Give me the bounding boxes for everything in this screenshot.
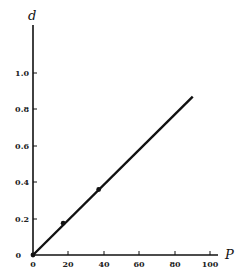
y-axis-label: d xyxy=(28,8,36,23)
y-tick-label: 0.2 xyxy=(15,214,29,224)
fit-line xyxy=(33,97,193,255)
x-axis-label: P xyxy=(224,247,234,262)
y-tick-label: 0.6 xyxy=(15,141,29,151)
data-point xyxy=(61,221,66,226)
x-tick-label: 0 xyxy=(30,259,36,269)
x-tick-label: 40 xyxy=(98,259,110,269)
x-tick-label: 100 xyxy=(202,259,219,269)
plot-area xyxy=(31,97,193,258)
x-tick-label: 20 xyxy=(62,259,74,269)
y-tick-label: 0.8 xyxy=(15,104,29,114)
x-tick-label: 80 xyxy=(169,259,181,269)
y-tick-label: 0.4 xyxy=(15,177,29,187)
y-tick-label: 1.0 xyxy=(15,68,29,78)
chart: d P 0 0.2 0.4 0.6 0.8 1.0 0 20 40 60 80 … xyxy=(0,0,246,273)
data-point xyxy=(31,253,36,258)
x-ticks: 0 20 40 60 80 100 xyxy=(30,251,219,269)
x-tick-label: 60 xyxy=(133,259,145,269)
y-tick-label: 0 xyxy=(15,250,21,260)
data-point xyxy=(96,187,101,192)
